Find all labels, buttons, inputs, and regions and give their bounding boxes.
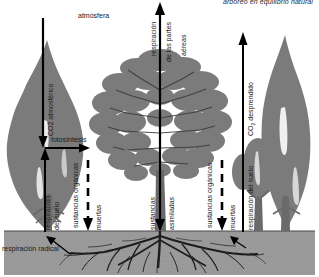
tree-right-columnar bbox=[262, 35, 311, 231]
label-photosynthesis: fotosíntesis bbox=[51, 136, 86, 143]
label-dead-organic-right-line2: muertas bbox=[229, 192, 236, 230]
label-dead-organic-left-line1: sustancias orgánicas bbox=[72, 150, 79, 228]
label-soil-respiration-right: respiración del suelo bbox=[247, 148, 254, 230]
label-co2-released-rest: desprendido bbox=[247, 82, 254, 122]
carbon-cycle-diagram: arbóreo en equilibrio natural atmósfera … bbox=[0, 0, 319, 277]
label-soil-respiration-left-line1: respiración bbox=[44, 182, 51, 230]
label-root-respiration: respiración radical bbox=[2, 245, 59, 252]
label-assimilated-line2: asimiladas bbox=[168, 182, 175, 230]
label-atmosphere: atmósfera bbox=[78, 12, 109, 19]
label-dead-organic-left-line2: muertas bbox=[95, 192, 102, 230]
arrow-dead-organic-left bbox=[83, 160, 93, 231]
label-dead-organic-right-line1: sustancias orgánicas bbox=[206, 150, 213, 228]
label-assimilated-line1: sustancias bbox=[149, 186, 156, 230]
label-co2-released: CO2 desprendido bbox=[247, 58, 257, 136]
arrow-dead-organic-right bbox=[217, 160, 227, 231]
label-aerial-respiration-line2: de las partes bbox=[165, 8, 172, 62]
label-co2-atmospheric-text: CO2 atmosférico bbox=[47, 83, 54, 136]
scene-artwork bbox=[0, 0, 319, 277]
label-co2-released-sub: 2 bbox=[250, 123, 256, 126]
label-co2-released-base: CO bbox=[247, 126, 254, 137]
label-aerial-respiration-line3: aéreas bbox=[180, 22, 187, 56]
label-aerial-respiration-line1: respiración bbox=[150, 10, 157, 56]
figure-caption-top: arbóreo en equilibrio natural bbox=[223, 0, 313, 5]
label-soil-respiration-left-line2: del suelo bbox=[53, 190, 60, 230]
label-co2-atmospheric: CO2 atmosférico bbox=[47, 44, 54, 136]
